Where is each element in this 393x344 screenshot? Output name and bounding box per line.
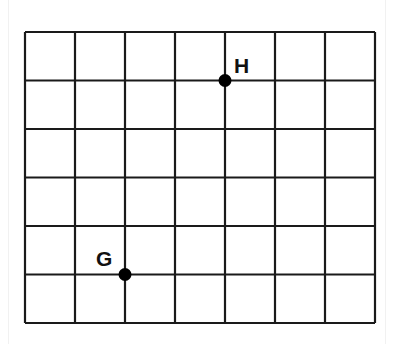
- grid-diagram: HG: [0, 0, 393, 344]
- grid-lines: [25, 32, 375, 323]
- point-h-label: H: [234, 54, 249, 77]
- points-layer: HG: [96, 54, 249, 282]
- point-g-label: G: [96, 247, 112, 270]
- point-g-marker: [119, 268, 132, 281]
- point-h-marker: [219, 74, 232, 87]
